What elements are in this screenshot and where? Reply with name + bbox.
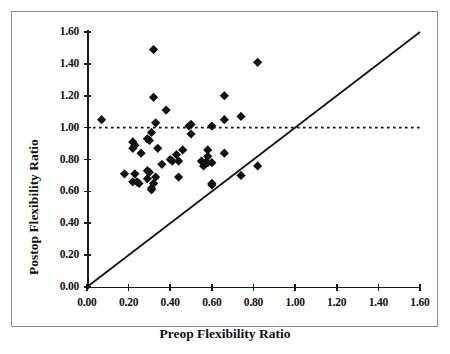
plot-canvas [0,0,450,354]
data-point [149,45,158,54]
data-point [157,160,166,169]
data-point [120,169,129,178]
data-point [220,91,229,100]
data-point [174,172,183,181]
data-point [236,112,245,121]
data-point [207,121,216,130]
y-axis-title: Postop Flexibility Ratio [26,139,42,275]
data-point [137,149,146,158]
data-point [220,115,229,124]
x-axis-title: Preop Flexibility Ratio [0,326,450,342]
data-point [253,161,262,170]
data-point [153,144,162,153]
data-point [151,118,160,127]
data-point [161,105,170,114]
data-point [220,149,229,158]
data-point [186,129,195,138]
data-point [130,169,139,178]
data-point [253,58,262,67]
data-point [149,93,158,102]
identity-line-icon [87,32,420,287]
scatter-plot-figure: 0.000.200.400.600.801.001.201.401.60 0.0… [0,0,450,354]
data-point [97,115,106,124]
